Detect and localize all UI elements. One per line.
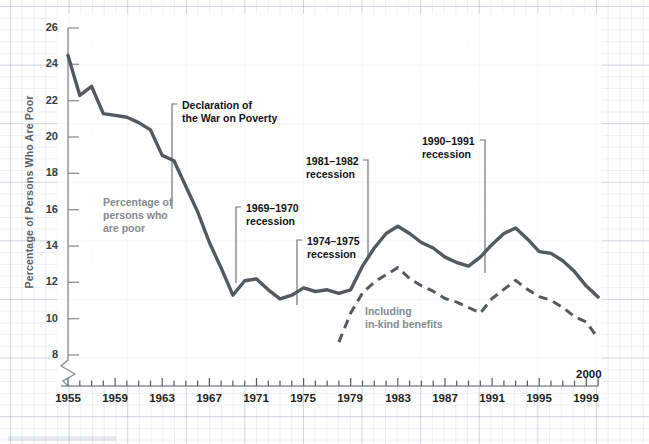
y-tick-label-26: 26 (30, 21, 58, 33)
annotation-recession-1981-1982-line1: 1981–1982 (306, 155, 359, 168)
y-axis-title: Percentage of Persons Who Are Poor (23, 77, 35, 307)
y-tick-label-18: 18 (30, 166, 58, 178)
y-tick-label-10: 10 (30, 312, 58, 324)
annotation-recession-1969-1970-line2: recession (246, 215, 295, 228)
annotation-recession-1974-1975-line2: recession (307, 248, 356, 261)
series-label-inkind-line2: in-kind benefits (365, 318, 443, 331)
footer-accent-bar (8, 436, 116, 441)
annotation-war-on-poverty-line2: the War on Poverty (182, 112, 277, 125)
series-label-poor-line2: persons who (103, 209, 168, 222)
annotation-recession-1990-1991-line1: 1990–1991 (422, 135, 475, 148)
poverty-rate-chart-figure: Percentage of Persons Who Are Poor 26 24… (0, 0, 649, 444)
annotation-recession-1974-1975-line1: 1974–1975 (307, 235, 360, 248)
leader-recession-1981-1982 (363, 160, 368, 258)
x-tick-label-1999: 1999 (556, 392, 616, 404)
series-label-poor-line3: are poor (103, 222, 145, 235)
y-tick-label-12: 12 (30, 275, 58, 287)
end-year-label-2000: 2000 (576, 368, 602, 380)
y-tick-label-14: 14 (30, 239, 58, 251)
leader-war-on-poverty (172, 104, 177, 209)
y-tick-label-24: 24 (30, 57, 58, 69)
leader-recession-1974-1975 (297, 240, 302, 305)
annotation-recession-1969-1970-line1: 1969–1970 (246, 202, 299, 215)
y-tick-label-8: 8 (30, 348, 58, 360)
annotation-recession-1981-1982-line2: recession (306, 168, 355, 181)
leader-recession-1969-1970 (236, 207, 241, 283)
annotation-recession-1990-1991-line2: recession (422, 148, 471, 161)
series-label-poor-line1: Percentage of (103, 196, 172, 209)
annotation-war-on-poverty-line1: Declaration of (182, 99, 252, 112)
y-tick-label-16: 16 (30, 203, 58, 215)
series-label-inkind-line1: Including (365, 305, 412, 318)
chart-canvas (0, 0, 649, 444)
y-axis (61, 28, 75, 386)
x-axis-ticks (68, 378, 598, 386)
y-tick-label-22: 22 (30, 94, 58, 106)
y-tick-label-20: 20 (30, 130, 58, 142)
